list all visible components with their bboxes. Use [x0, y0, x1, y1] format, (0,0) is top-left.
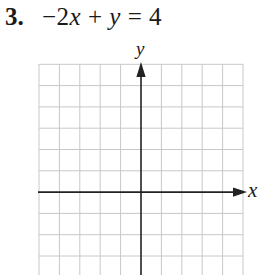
x-axis-arrow-icon: [233, 188, 247, 197]
coordinate-grid: [0, 0, 260, 275]
y-axis: [136, 62, 145, 275]
x-axis-label: x: [248, 178, 257, 203]
x-axis: [38, 188, 247, 197]
y-axis-label: y: [136, 38, 144, 60]
